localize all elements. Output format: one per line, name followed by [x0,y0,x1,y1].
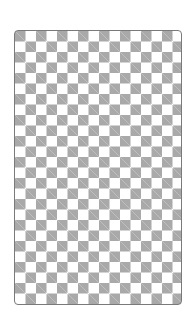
transparency-checkerboard-canvas [14,30,182,305]
